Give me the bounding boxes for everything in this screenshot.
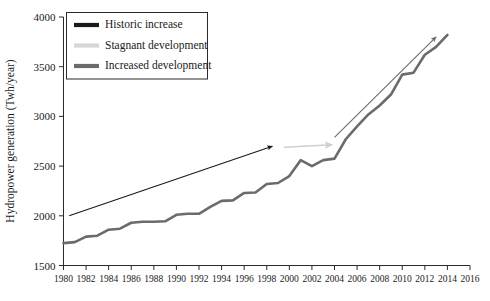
y-tick-label: 3000 bbox=[34, 110, 57, 122]
x-tick-label: 2006 bbox=[348, 274, 367, 284]
x-tick-label: 2010 bbox=[393, 274, 412, 284]
x-tick-label: 1982 bbox=[77, 274, 96, 284]
y-tick-label: 2000 bbox=[34, 210, 57, 222]
x-axis-ticks bbox=[64, 266, 471, 271]
x-tick-label: 1988 bbox=[144, 274, 163, 284]
x-tick-label: 1994 bbox=[212, 274, 231, 284]
x-tick-label: 2002 bbox=[302, 274, 321, 284]
x-tick-label: 1998 bbox=[257, 274, 276, 284]
x-tick-label: 2008 bbox=[370, 274, 389, 284]
x-tick-label: 1990 bbox=[167, 274, 186, 284]
x-tick-label: 1984 bbox=[99, 274, 118, 284]
x-tick-label: 1996 bbox=[235, 274, 254, 284]
arrow-stagnant-development bbox=[284, 145, 333, 147]
x-tick-label: 2000 bbox=[280, 274, 299, 284]
arrow-historic-increase bbox=[69, 146, 272, 216]
legend-label-historic-increase: Historic increase bbox=[105, 18, 183, 30]
y-axis-title: Hydropower generation (Twh/year) bbox=[4, 59, 17, 222]
y-axis-tick-labels: 150020002500300035004000 bbox=[34, 11, 57, 272]
y-tick-label: 3500 bbox=[34, 61, 57, 73]
x-tick-label: 1992 bbox=[190, 274, 209, 284]
legend-label-increased-development: Increased development bbox=[105, 59, 212, 72]
legend-label-stagnant-development: Stagnant development bbox=[105, 39, 208, 52]
y-tick-label: 2500 bbox=[34, 160, 57, 172]
x-tick-label: 2012 bbox=[415, 274, 434, 284]
chart-legend: Historic increase Stagnant development I… bbox=[67, 13, 213, 80]
arrow-increased-development bbox=[335, 37, 437, 137]
y-tick-label: 1500 bbox=[34, 260, 57, 272]
x-tick-label: 2016 bbox=[461, 274, 480, 284]
x-axis-tick-labels: 1980198219841986198819901992199419961998… bbox=[54, 274, 480, 284]
y-tick-label: 4000 bbox=[34, 11, 57, 23]
y-axis-ticks bbox=[59, 17, 64, 266]
x-tick-label: 1986 bbox=[122, 274, 141, 284]
x-tick-label: 2014 bbox=[438, 274, 457, 284]
hydropower-line-chart: 150020002500300035004000 198019821984198… bbox=[0, 0, 490, 301]
x-tick-label: 2004 bbox=[325, 274, 344, 284]
x-tick-label: 1980 bbox=[54, 274, 73, 284]
chart-figure: 150020002500300035004000 198019821984198… bbox=[0, 0, 490, 301]
